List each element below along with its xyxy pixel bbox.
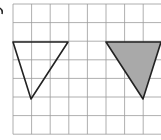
shaded-triangle [106,42,161,99]
outline-triangle [13,42,68,99]
partial-label-mark [0,8,2,14]
grid-diagram [0,0,161,140]
